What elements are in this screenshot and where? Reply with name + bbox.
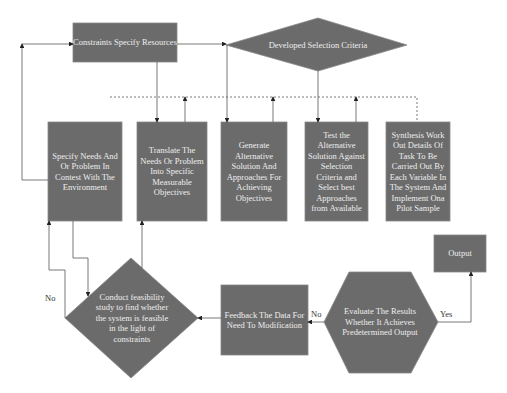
edge-label-no-mid: No (311, 309, 321, 319)
generate-label: Generate Alternative Solution And Approa… (223, 122, 285, 221)
edge-label-yes: Yes (440, 309, 452, 319)
feedback-label: Feedback The Data For Need To Modificati… (223, 285, 306, 355)
output-label: Output (434, 235, 486, 272)
evaluate-label: Evaluate The Results Whether It Achieves… (340, 282, 420, 362)
translate-label: Translate The Needs Or Problem Into Spec… (139, 122, 205, 221)
edge-label-no-left: No (45, 293, 55, 303)
feasibility-label: Conduct feasibility study to find whethe… (92, 290, 172, 346)
synthesis-label: Synthesis Work Out Details Of Task To Be… (388, 122, 448, 221)
constraints-label: Constraints Specify Resources (73, 23, 177, 62)
criteria-label: Developed Selection Criteria (268, 28, 368, 62)
test-label: Test the Alternative Solution Against Se… (307, 122, 366, 221)
specify-label: Specify Needs And Or Problem In Contest … (50, 122, 120, 221)
